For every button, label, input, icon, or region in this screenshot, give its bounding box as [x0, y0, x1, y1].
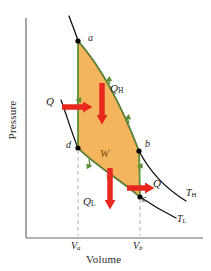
heat-label-QH-sub: H: [118, 86, 123, 95]
tick-label-Va: Va: [71, 241, 81, 252]
heat-label-Q-in-left: Q: [46, 96, 54, 107]
heat-label-QL: QL: [83, 196, 96, 208]
isotherm-label-TL-sub: L: [183, 217, 187, 224]
heat-label-Q-in-left-base: Q: [46, 95, 54, 107]
y-axis-title: Pressure: [6, 90, 18, 150]
heat-label-QH: QH: [110, 83, 123, 95]
state-point-a: [75, 38, 80, 43]
x-axis-title: Volume: [86, 253, 121, 265]
isotherm-label-TH-sub: H: [192, 191, 197, 198]
state-label-a: a: [88, 33, 93, 43]
tick-label-Va-sub: a: [77, 244, 80, 251]
isotherm-label-TL: TL: [177, 214, 187, 225]
heat-label-QL-sub: L: [91, 199, 96, 208]
state-point-d: [75, 145, 80, 150]
carnot-cycle-figure: a b c d W Q QH QL Q TH TL Va Vb Pressure…: [0, 0, 211, 271]
state-label-d: d: [66, 140, 71, 150]
heat-label-Q-out-right: Q: [153, 178, 161, 189]
tick-label-Vb-sub: b: [139, 244, 142, 251]
isotherm-label-TH: TH: [186, 188, 196, 199]
state-label-c: c: [142, 194, 146, 204]
tick-label-Vb: Vb: [133, 241, 143, 252]
heat-label-QL-base: Q: [83, 195, 91, 207]
state-label-b: b: [145, 139, 150, 149]
state-point-b: [136, 148, 141, 153]
pv-diagram-canvas: [0, 0, 211, 271]
work-label: W: [100, 148, 109, 159]
heat-label-Q-out-right-base: Q: [153, 177, 161, 189]
heat-label-QH-base: Q: [110, 82, 118, 94]
